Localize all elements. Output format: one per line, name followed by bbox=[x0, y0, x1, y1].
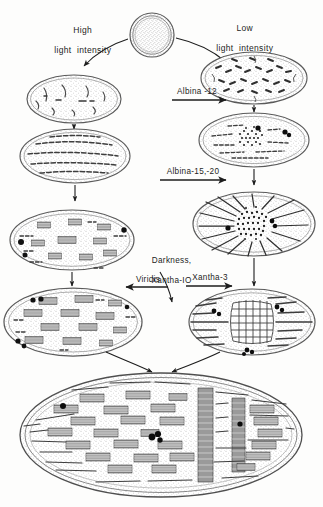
arrow-viridis-to-chloroplast bbox=[106, 352, 152, 372]
plastid-with-early-grana bbox=[10, 210, 134, 270]
plastid-with-lamellae bbox=[20, 129, 130, 183]
label-xantha-3: Xantha-3 bbox=[184, 273, 236, 284]
label-low-light-intensity: Low light intensity bbox=[196, 13, 288, 53]
label-low-light-line1: Low bbox=[236, 23, 253, 33]
plastid-xantha3 bbox=[189, 289, 315, 356]
label-albina-15-20: Albina-15,-20 bbox=[154, 167, 232, 178]
figure-canvas: High light intensity Low light intensity… bbox=[0, 0, 323, 507]
label-darkness-line1: Darkness, bbox=[152, 256, 192, 265]
label-high-light-line1: High bbox=[73, 25, 92, 35]
label-low-light-line2: light intensity bbox=[216, 43, 273, 53]
label-albina-12: Albina -12 bbox=[166, 87, 228, 98]
plastid-mature-chloroplast bbox=[20, 373, 302, 497]
label-high-light-intensity: High light intensity bbox=[34, 15, 126, 55]
label-high-light-line2: light intensity bbox=[54, 45, 111, 55]
plastid-high-light-young bbox=[27, 75, 121, 123]
label-viridis: Viridis bbox=[126, 275, 170, 286]
arrow-xantha3-to-chloroplast bbox=[172, 352, 220, 372]
plastid-albina12-block bbox=[199, 113, 309, 167]
plastid-proplastid bbox=[130, 13, 174, 57]
plastid-etioplast bbox=[193, 192, 315, 256]
plastid-viridis bbox=[4, 288, 142, 356]
